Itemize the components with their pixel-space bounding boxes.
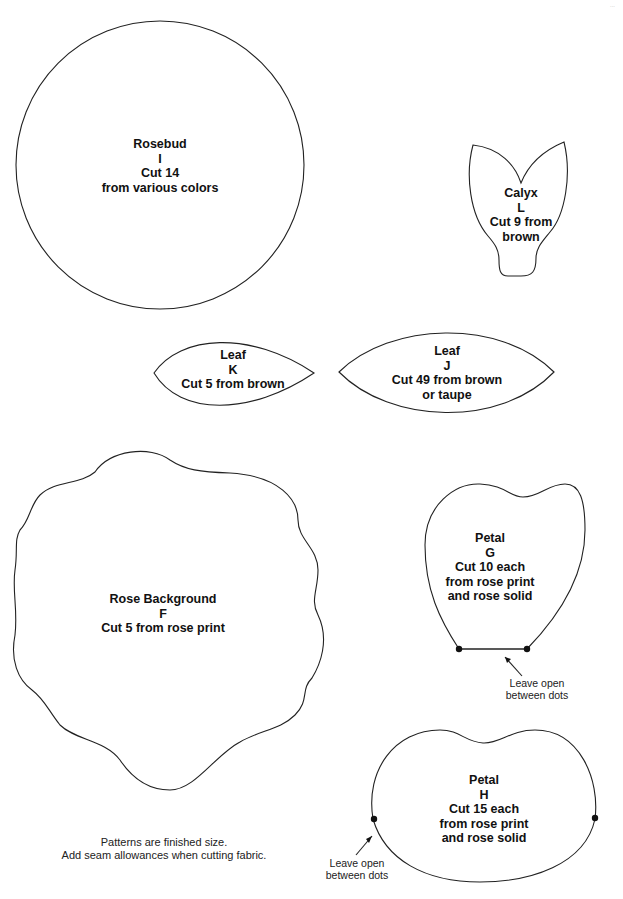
- calyx-label: Calyx L Cut 9 from brown: [490, 186, 553, 244]
- leaf-j-label: Leaf J Cut 49 from brown or taupe: [392, 344, 502, 402]
- petal-h-dot-right: [592, 815, 598, 821]
- rose-background-label: Rose Background F Cut 5 from rose print: [101, 592, 225, 636]
- piece-fabric: and rose solid: [440, 831, 529, 846]
- rosebud-label: Rosebud I Cut 14 from various colors: [102, 137, 219, 195]
- piece-cut: Cut 49 from brown: [392, 373, 502, 388]
- piece-letter: H: [440, 788, 529, 803]
- petal-g-dot-left: [456, 646, 462, 652]
- piece-fabric: brown: [490, 230, 553, 245]
- piece-name: Leaf: [181, 348, 284, 363]
- piece-cut: Cut 14: [102, 166, 219, 181]
- piece-name: Rose Background: [101, 592, 225, 607]
- petal-g-label: Petal G Cut 10 each from rose print and …: [446, 531, 535, 604]
- petal-g-dot-right: [524, 646, 530, 652]
- piece-name: Leaf: [392, 344, 502, 359]
- piece-name: Petal: [440, 773, 529, 788]
- petal-h-dot-left: [371, 816, 377, 822]
- piece-cut: Cut 10 each: [446, 560, 535, 575]
- piece-cut: Cut 15 each: [440, 802, 529, 817]
- petal-h-label: Petal H Cut 15 each from rose print and …: [440, 773, 529, 846]
- page-mark: ...: [610, 2, 615, 8]
- piece-letter: K: [181, 363, 284, 378]
- piece-fabric: from various colors: [102, 181, 219, 196]
- piece-cut: Cut 5 from rose print: [101, 621, 225, 636]
- piece-name: Calyx: [490, 186, 553, 201]
- pattern-shapes: [0, 0, 623, 899]
- piece-fabric: from rose print: [440, 817, 529, 832]
- piece-cut: Cut 5 from brown: [181, 377, 284, 392]
- leaf-k-label: Leaf K Cut 5 from brown: [181, 348, 284, 392]
- petal-h-note: Leave open between dots: [326, 857, 388, 881]
- piece-fabric: from rose print: [446, 575, 535, 590]
- petal-g-note: Leave open between dots: [506, 677, 568, 701]
- piece-fabric: and rose solid: [446, 589, 535, 604]
- piece-letter: F: [101, 607, 225, 622]
- piece-cut: Cut 9 from: [490, 215, 553, 230]
- piece-letter: I: [102, 152, 219, 167]
- piece-name: Rosebud: [102, 137, 219, 152]
- footer-note: Patterns are finished size. Add seam all…: [62, 836, 267, 862]
- piece-letter: L: [490, 201, 553, 216]
- piece-name: Petal: [446, 531, 535, 546]
- piece-fabric: or taupe: [392, 388, 502, 403]
- piece-letter: J: [392, 359, 502, 374]
- piece-letter: G: [446, 546, 535, 561]
